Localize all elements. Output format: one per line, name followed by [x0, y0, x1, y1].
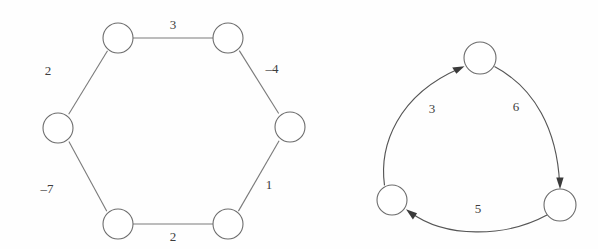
graph-figure: 3 –4 1 2 –7 2 3 6 5 — [0, 0, 598, 249]
figure-container: 3 –4 1 2 –7 2 3 6 5 — [0, 0, 598, 249]
hexagon-edge-h3-h4 — [238, 141, 279, 211]
hexagon-node-h5[interactable] — [103, 209, 133, 239]
hexagon-edge-label-h6-h1: 2 — [45, 63, 52, 78]
triangle-graph: 3 6 5 — [377, 42, 576, 232]
hexagon-node-h1[interactable] — [103, 23, 133, 53]
triangle-edge-t3-t1 — [384, 69, 460, 186]
hexagon-node-h2[interactable] — [213, 23, 243, 53]
hexagon-node-h3[interactable] — [275, 112, 305, 142]
hexagon-node-h4[interactable] — [213, 209, 243, 239]
hexagon-graph: 3 –4 1 2 –7 2 — [40, 17, 306, 244]
hexagon-edge-h6-h1 — [69, 51, 108, 114]
triangle-node-t2[interactable] — [544, 189, 576, 221]
triangle-edge-t1-t2 — [495, 67, 560, 184]
hexagon-edge-h5-h6 — [69, 142, 107, 212]
hexagon-edge-label-h2-h3: –4 — [265, 61, 280, 76]
hexagon-node-h6[interactable] — [43, 113, 73, 143]
hexagon-edge-label-h4-h5: 2 — [170, 229, 177, 244]
triangle-edge-label-t1-t2: 6 — [513, 99, 520, 114]
triangle-node-t1[interactable] — [464, 42, 496, 74]
hexagon-edge-label-h3-h4: 1 — [266, 177, 273, 192]
hexagon-edge-label-h5-h6: –7 — [40, 181, 55, 196]
triangle-edge-label-t2-t3: 5 — [475, 201, 482, 216]
triangle-arrowhead-t3-t1 — [452, 66, 464, 74]
triangle-edge-label-t3-t1: 3 — [429, 101, 436, 116]
triangle-node-t3[interactable] — [377, 185, 407, 215]
triangle-arrowhead-t1-t2 — [556, 177, 563, 189]
hexagon-edge-label-h1-h2: 3 — [170, 17, 177, 32]
triangle-arrowhead-t2-t3 — [406, 209, 417, 219]
